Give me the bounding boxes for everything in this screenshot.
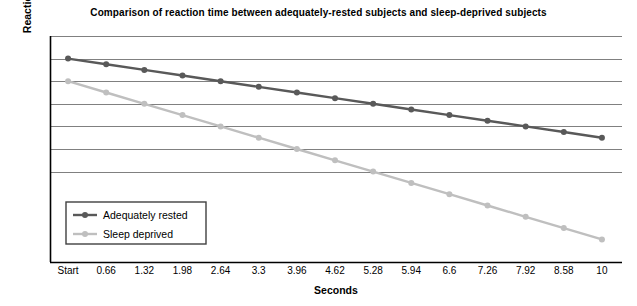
data-point-marker	[103, 90, 109, 96]
x-tick-label: 2.64	[211, 265, 230, 276]
data-point-marker	[218, 78, 224, 84]
data-point-marker	[446, 112, 452, 118]
data-point-marker	[561, 225, 567, 231]
x-tick-label: 3.96	[287, 265, 306, 276]
legend-swatch-marker	[82, 231, 88, 237]
x-tick-label: 3.3	[252, 265, 266, 276]
data-point-marker	[256, 135, 262, 141]
legend-label: Sleep deprived	[103, 228, 173, 240]
x-tick-label: 10	[596, 265, 607, 276]
plot-area: Adequately restedSleep deprived	[0, 0, 637, 306]
data-point-marker	[332, 157, 338, 163]
data-point-marker	[370, 169, 376, 175]
data-point-marker	[446, 191, 452, 197]
data-point-marker	[294, 146, 300, 152]
data-point-marker	[599, 135, 605, 141]
data-point-marker	[141, 101, 147, 107]
data-point-marker	[179, 73, 185, 79]
data-point-marker	[523, 123, 529, 129]
legend: Adequately restedSleep deprived	[66, 202, 206, 244]
data-point-marker	[179, 112, 185, 118]
gridlines	[50, 37, 622, 173]
data-point-marker	[370, 101, 376, 107]
x-tick-label: 6.6	[442, 265, 456, 276]
x-axis-title: Seconds	[50, 284, 622, 296]
data-point-marker	[332, 95, 338, 101]
x-tick-label: 1.32	[135, 265, 154, 276]
data-point-marker	[141, 67, 147, 73]
x-tick-label: Start	[58, 265, 79, 276]
legend-swatch-marker	[82, 212, 88, 218]
data-point-marker	[523, 214, 529, 220]
data-point-marker	[294, 90, 300, 96]
data-point-marker	[65, 56, 71, 62]
x-tick-label: 4.62	[325, 265, 344, 276]
x-tick-label: 5.28	[363, 265, 382, 276]
data-point-marker	[485, 203, 491, 209]
data-point-marker	[408, 106, 414, 112]
reaction-time-line-chart: Comparison of reaction time between adeq…	[0, 0, 637, 306]
data-point-marker	[485, 118, 491, 124]
data-point-marker	[408, 180, 414, 186]
data-point-marker	[256, 84, 262, 90]
x-tick-label: 0.66	[96, 265, 115, 276]
data-point-marker	[218, 123, 224, 129]
data-point-marker	[599, 236, 605, 242]
x-tick-label: 7.92	[516, 265, 535, 276]
x-tick-label: 8.58	[554, 265, 573, 276]
data-point-marker	[65, 78, 71, 84]
legend-label: Adequately rested	[103, 209, 188, 221]
data-point-marker	[103, 61, 109, 67]
x-tick-label: 5.94	[402, 265, 421, 276]
x-tick-label: 7.26	[478, 265, 497, 276]
x-tick-label: 1.98	[173, 265, 192, 276]
data-point-marker	[561, 129, 567, 135]
